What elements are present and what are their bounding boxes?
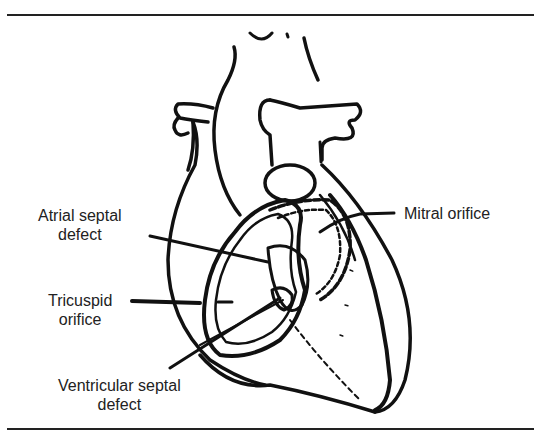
tricuspid-orifice-leader — [132, 301, 200, 303]
svc-stub — [174, 104, 213, 170]
ventricle-shading-2 — [340, 270, 355, 338]
label-tricuspid-orifice-line2: orifice — [48, 310, 112, 329]
aorta-left-wall — [214, 47, 240, 215]
heart-outer-bottom — [200, 355, 375, 412]
label-tricuspid-orifice-line1: Tricuspid — [48, 291, 112, 310]
right-ventricle-inner-ring — [215, 214, 296, 344]
label-ventricular-septal-defect: Ventricular septal defect — [58, 376, 181, 414]
ventricular-septal-defect-leader-2 — [200, 300, 283, 345]
label-tricuspid-orifice: Tricuspid orifice — [48, 291, 112, 329]
label-atrial-septal-defect-line1: Atrial septal — [38, 206, 122, 225]
aorta-top-dot — [287, 34, 288, 37]
pulmonary-divider — [320, 142, 321, 162]
ventricle-shading-1 — [290, 320, 360, 400]
label-mitral-orifice: Mitral orifice — [404, 204, 490, 223]
label-ventricular-septal-defect-line2: defect — [58, 395, 181, 414]
label-atrial-septal-defect: Atrial septal defect — [38, 206, 122, 244]
pulmonary-artery — [270, 100, 361, 160]
aortic-valve — [265, 165, 315, 201]
aorta-right-wall — [304, 38, 318, 80]
label-ventricular-septal-defect-line1: Ventricular septal — [58, 376, 181, 395]
pulmonary-root-left — [260, 100, 272, 165]
label-atrial-septal-defect-line2: defect — [38, 225, 122, 244]
label-mitral-orifice-line1: Mitral orifice — [404, 204, 490, 223]
aorta-top-notch — [250, 33, 272, 39]
